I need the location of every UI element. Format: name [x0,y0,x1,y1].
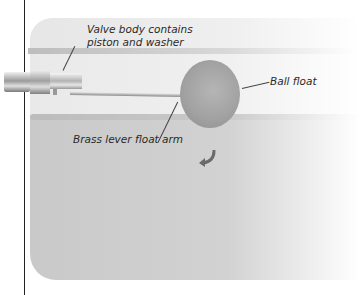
page-margin-line [24,0,25,295]
valve-collar [30,70,50,94]
valve-body-label-line1: Valve body contains [87,23,193,35]
valve-outlet [53,89,57,95]
valve-body [50,73,82,89]
valve-body-label-line2: piston and washer [87,36,184,48]
curved-arrow-icon [197,150,219,170]
lever-arm-label: Brass lever float arm [73,133,183,145]
ball-float [180,60,240,128]
valve-nut [4,72,30,92]
ball-float-label: Ball float [270,75,317,87]
